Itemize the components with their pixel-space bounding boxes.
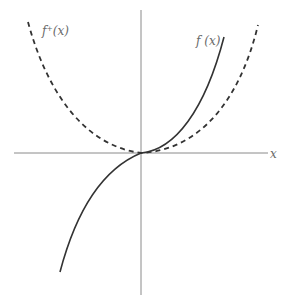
label-x-axis: x <box>270 147 277 161</box>
label-f: f (x) <box>195 34 221 48</box>
function-plot: f⁺(x) f (x) x <box>0 0 295 300</box>
label-f-plus: f⁺(x) <box>41 24 69 38</box>
curve-f <box>60 37 224 272</box>
